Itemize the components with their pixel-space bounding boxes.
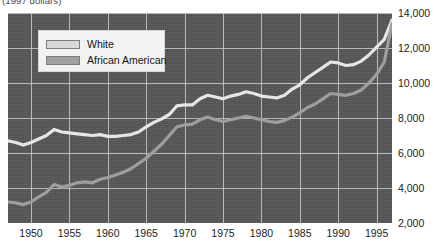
legend-swatch-white: [46, 40, 80, 49]
y-tick-label: 10,000: [398, 77, 430, 89]
y-tick-label: 8,000: [398, 112, 424, 124]
chart-legend: White African American: [38, 30, 165, 72]
legend-swatch-african-american: [46, 56, 80, 65]
legend-item-african-american: African American: [46, 52, 164, 68]
y-tick-label: 12,000: [398, 42, 430, 54]
x-tick-label: 1975: [211, 227, 234, 239]
x-tick-label: 1955: [58, 227, 81, 239]
y-tick-label: 6,000: [398, 147, 424, 159]
x-tick-label: 1985: [288, 227, 311, 239]
x-tick-label: 1965: [135, 227, 158, 239]
x-tick-label: 1960: [96, 227, 119, 239]
y-tick-label: 4,000: [398, 182, 424, 194]
x-tick-label: 1950: [19, 227, 42, 239]
y-tick-label: 2,000: [398, 217, 424, 229]
chart-figure: (1997 dollars) 2,0004,0006,0008,00010,00…: [0, 0, 440, 247]
x-tick-label: 1990: [327, 227, 350, 239]
x-tick-label: 1970: [173, 227, 196, 239]
legend-label-african-american: African American: [87, 55, 166, 66]
chart-caption: (1997 dollars): [2, 0, 62, 6]
legend-item-white: White: [46, 36, 164, 52]
x-tick-label: 1995: [365, 227, 388, 239]
y-tick-label: 14,000: [398, 7, 430, 19]
legend-label-white: White: [87, 39, 114, 50]
x-tick-label: 1980: [250, 227, 273, 239]
